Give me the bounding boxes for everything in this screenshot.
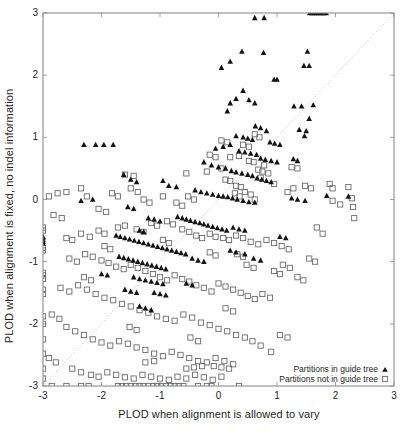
x-tick-label: -1 (148, 390, 172, 401)
y-tick-label: 1 (18, 131, 38, 142)
series-partitions-in-guide-tree (40, 10, 351, 313)
x-tick-label: 1 (265, 390, 289, 401)
x-tick-label: 3 (382, 390, 406, 401)
y-tick-label: -2 (18, 318, 38, 329)
legend-item-in-guide-tree: Partitions in guide tree (200, 364, 378, 374)
legend-markers (382, 367, 388, 382)
legend-item-not-in-guide-tree: Partitions not in guide tree (200, 374, 378, 384)
x-tick-label: -2 (90, 390, 114, 401)
identity-reference-line (43, 13, 394, 386)
x-axis-label: PLOD when alignment is allowed to vary (43, 408, 395, 420)
y-axis-label: PLOD when alignment is fixed, no indel i… (0, 0, 18, 432)
y-tick-label: 0 (18, 194, 38, 205)
x-tick-label: 0 (207, 390, 231, 401)
y-tick-label: 3 (18, 7, 38, 18)
y-tick-label: -1 (18, 256, 38, 267)
x-tick-label: 2 (324, 390, 348, 401)
x-tick-label: -3 (31, 390, 55, 401)
y-tick-label: -3 (18, 380, 38, 391)
y-tick-label: 2 (18, 69, 38, 80)
scatter-plot-figure: PLOD when alignment is fixed, no indel i… (0, 0, 414, 432)
